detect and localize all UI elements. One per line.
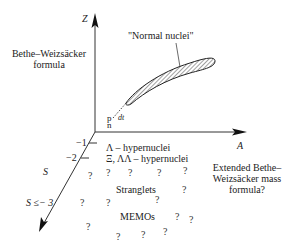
bethe-weizsacker-label: Bethe–Weizsäcker formula <box>10 48 88 70</box>
question-mark: ? <box>155 195 159 205</box>
question-mark: ? <box>106 198 110 208</box>
z-axis <box>92 13 99 132</box>
question-mark: ? <box>163 227 167 237</box>
question-mark: ? <box>141 230 145 240</box>
memos-label: MEMOs <box>120 211 155 222</box>
normal-nuclei-band <box>126 58 215 105</box>
a-axis <box>95 129 247 136</box>
neutron-label: n <box>107 121 112 129</box>
question-mark: ? <box>189 215 193 225</box>
question-mark: ? <box>183 166 187 176</box>
question-mark: ? <box>182 185 186 195</box>
question-mark: ? <box>157 168 161 178</box>
question-mark: ? <box>116 232 120 242</box>
question-mark: ? <box>80 198 84 208</box>
question-mark: ? <box>175 212 179 222</box>
question-mark: ? <box>88 171 92 181</box>
normal-nuclei-leader <box>176 43 180 67</box>
s-axis-label: S <box>43 166 48 177</box>
s-tick-minus1-label: −1 <box>76 137 87 148</box>
question-mark: ? <box>106 168 110 178</box>
deuteron-triton-label: dt <box>118 112 124 123</box>
normal-nuclei-label: "Normal nuclei" <box>128 30 194 41</box>
xi-hypernuclei-label: Ξ, ΛΛ – hypernuclei <box>106 153 188 164</box>
extended-formula-label: Extended Bethe– Weizsäcker mass formula? <box>205 162 289 195</box>
z-axis-label: Z <box>82 13 88 24</box>
question-mark: ? <box>128 168 132 178</box>
question-mark: ? <box>86 222 90 232</box>
s-tick-minus2-label: −2 <box>66 152 77 163</box>
s-le3-label: S ≤− 3 <box>26 197 53 208</box>
lambda-hypernuclei-label: Λ – hypernuclei <box>106 142 170 153</box>
a-axis-label: A <box>237 140 243 151</box>
strangelets-label: Stranglets <box>116 184 156 195</box>
s-axis <box>39 132 97 232</box>
